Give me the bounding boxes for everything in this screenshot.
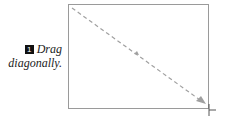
crosshair-cursor-icon [209, 104, 216, 116]
drag-arrow-icon [0, 0, 225, 120]
